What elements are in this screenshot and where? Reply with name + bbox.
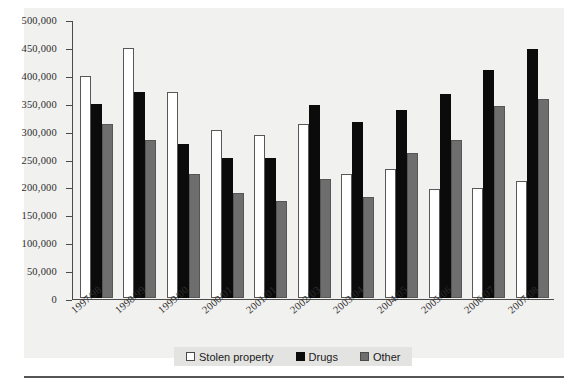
black-square-icon <box>296 352 305 361</box>
bar-drugs <box>396 110 407 298</box>
y-axis-tick-label: 200,000 <box>0 183 57 194</box>
bar-group <box>75 21 119 298</box>
y-axis-tick-label: 0 <box>0 294 57 305</box>
bar-stolen <box>385 169 396 297</box>
bar-group <box>118 21 162 298</box>
y-axis-tick <box>66 133 72 134</box>
y-axis-tick-label: 500,000 <box>0 15 57 26</box>
y-axis-tick-label: 350,000 <box>0 99 57 110</box>
y-axis-tick <box>66 244 72 245</box>
bar-stolen <box>254 135 265 297</box>
bar-stolen <box>472 188 483 297</box>
bar-drugs <box>134 92 145 297</box>
y-axis-tick <box>66 105 72 106</box>
bar-stolen <box>123 48 134 298</box>
bar-stolen <box>341 174 352 297</box>
y-axis-tick <box>66 77 72 78</box>
x-axis-labels: 1997/981998/991999/002000/012001/012002/… <box>73 301 554 351</box>
bar-group <box>423 21 467 298</box>
y-axis-tick <box>66 188 72 189</box>
y-axis-tick-label: 250,000 <box>0 155 57 166</box>
bar-other <box>145 140 156 297</box>
bar-drugs <box>91 104 102 298</box>
bar-group <box>162 21 206 298</box>
bar-group <box>380 21 424 298</box>
x-axis-label-cell: 2001/01 <box>248 301 292 351</box>
x-axis-label-cell: 2007/08 <box>510 301 554 351</box>
bar-other <box>451 140 462 297</box>
bar-drugs <box>352 122 363 298</box>
bar-groups <box>75 21 555 298</box>
x-axis-label-cell: 2002/03 <box>292 301 336 351</box>
bar-group <box>249 21 293 298</box>
bar-stolen <box>80 76 91 298</box>
x-axis-label-cell: 1997/98 <box>73 301 117 351</box>
bar-stolen <box>516 181 527 298</box>
grey-square-icon <box>360 352 369 361</box>
bar-other <box>276 201 287 298</box>
y-axis-tick-label: 50,000 <box>0 266 57 277</box>
x-axis-label-cell: 2000/01 <box>204 301 248 351</box>
legend-item[interactable]: Drugs <box>296 351 338 363</box>
y-axis-tick <box>66 300 72 301</box>
legend-item-label: Stolen property <box>199 351 274 363</box>
legend-item-label: Drugs <box>309 351 338 363</box>
legend-item-label: Other <box>373 351 401 363</box>
bar-other <box>363 197 374 297</box>
legend-item[interactable]: Other <box>360 351 401 363</box>
bar-stolen <box>298 124 309 298</box>
y-axis-tick <box>66 272 72 273</box>
y-axis-tick-label: 150,000 <box>0 210 57 221</box>
bar-group <box>205 21 249 298</box>
white-square-icon <box>186 352 195 361</box>
bar-chart-figure: 500,000450,000400,000350,000300,000250,0… <box>0 0 575 390</box>
y-axis-tick-label: 400,000 <box>0 71 57 82</box>
bar-other <box>233 193 244 297</box>
chart-legend: Stolen propertyDrugsOther <box>174 347 412 366</box>
y-axis-tick <box>66 49 72 50</box>
bar-other <box>189 174 200 297</box>
y-axis-tick-label: 300,000 <box>0 127 57 138</box>
bar-other <box>494 106 505 297</box>
bar-stolen <box>429 189 440 298</box>
y-axis-tick <box>66 161 72 162</box>
bar-other <box>407 153 418 298</box>
legend-item[interactable]: Stolen property <box>186 351 274 363</box>
x-axis-label-cell: 1999/00 <box>160 301 204 351</box>
bar-other <box>320 179 331 297</box>
bar-drugs <box>440 94 451 298</box>
x-axis-label-cell: 2006/07 <box>467 301 511 351</box>
bar-group <box>292 21 336 298</box>
bar-other <box>538 99 549 297</box>
bar-drugs <box>527 49 538 297</box>
bar-drugs <box>309 105 320 298</box>
x-axis-label-cell: 2005/06 <box>423 301 467 351</box>
bar-group <box>510 21 554 298</box>
bar-drugs <box>265 158 276 297</box>
bar-drugs <box>178 144 189 298</box>
plot-area <box>72 21 554 300</box>
bar-stolen <box>167 92 178 297</box>
y-axis-tick <box>66 216 72 217</box>
x-axis-label-cell: 2003/04 <box>335 301 379 351</box>
bar-other <box>102 124 113 297</box>
bar-stolen <box>211 130 222 298</box>
bar-group <box>336 21 380 298</box>
x-axis-label-cell: 1998/99 <box>117 301 161 351</box>
y-axis-tick <box>66 21 72 22</box>
bar-group <box>467 21 511 298</box>
y-axis-tick-label: 450,000 <box>0 43 57 54</box>
bar-drugs <box>222 158 233 298</box>
y-axis-tick-label: 100,000 <box>0 238 57 249</box>
bottom-divider <box>24 376 564 378</box>
x-axis-label-cell: 2004/05 <box>379 301 423 351</box>
bar-drugs <box>483 70 494 298</box>
